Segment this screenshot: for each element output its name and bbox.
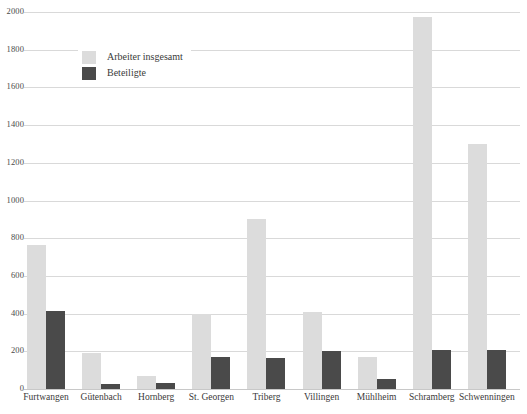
bar-part (211, 357, 230, 389)
bar-total (303, 312, 322, 389)
y-tick-label: 1000 (0, 196, 24, 205)
y-tick-label: 400 (0, 309, 24, 318)
y-tick-label: 600 (0, 271, 24, 280)
bar-part (266, 358, 285, 389)
bar-total (192, 314, 211, 389)
y-tick-label: 1200 (0, 158, 24, 167)
x-tick-label: Schwenningen (442, 391, 527, 404)
legend-item: Beteiligte (82, 65, 183, 81)
bar-part (377, 379, 396, 389)
bar-total (82, 353, 101, 389)
bar-total (27, 245, 46, 389)
y-axis: 0200400600800100012001400160018002000 (0, 12, 24, 389)
legend: Arbeiter insgesamt Beteiligte (78, 45, 191, 85)
bar-total (247, 219, 266, 389)
bar-part (101, 384, 120, 389)
y-tick-label: 1600 (0, 82, 24, 91)
legend-label: Beteiligte (107, 67, 146, 79)
legend-swatch-icon (82, 51, 96, 64)
x-axis: FurtwangenGütenbachHornbergSt. GeorgenTr… (0, 391, 527, 411)
legend-label: Arbeiter insgesamt (107, 51, 183, 63)
bar-part (156, 383, 175, 389)
legend-item: Arbeiter insgesamt (82, 49, 183, 65)
bar-total (137, 376, 156, 389)
y-tick-label: 800 (0, 233, 24, 242)
y-tick-label: 2000 (0, 7, 24, 16)
bar-chart: 0200400600800100012001400160018002000 Fu… (0, 0, 527, 414)
bar-part (487, 350, 506, 389)
y-tick-label: 200 (0, 346, 24, 355)
bar-part (432, 350, 451, 389)
bar-total (468, 144, 487, 389)
bar-total (413, 17, 432, 389)
y-tick-label: 1400 (0, 120, 24, 129)
bar-part (46, 311, 65, 389)
bar-total (358, 357, 377, 389)
axis-baseline (24, 389, 520, 390)
legend-swatch-icon (82, 67, 96, 80)
bar-part (322, 351, 341, 389)
y-tick-label: 1800 (0, 45, 24, 54)
